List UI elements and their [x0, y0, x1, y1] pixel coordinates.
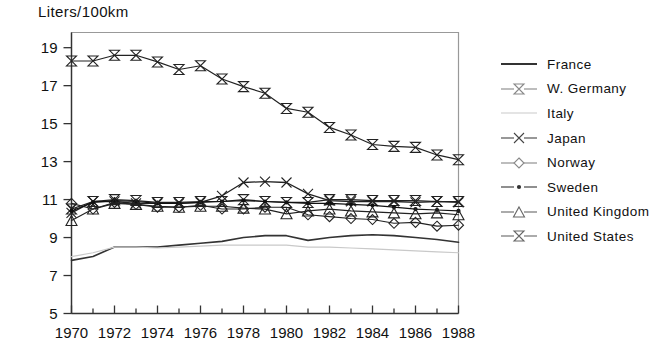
y-tick-label: 19 — [6, 39, 58, 56]
y-tick-label: 15 — [6, 115, 58, 132]
y-tick-label: 13 — [6, 153, 58, 170]
legend-item-label: Japan — [547, 131, 586, 146]
legend-item-w-germany[interactable]: W. Germany — [497, 77, 661, 102]
legend-marker-bowtie-icon — [497, 225, 541, 247]
legend-item-japan[interactable]: Japan — [497, 126, 661, 151]
legend-marker-dot-icon — [497, 176, 541, 198]
legend-item-label: Sweden — [547, 180, 599, 195]
legend-marker-none-icon — [497, 53, 541, 75]
x-tick-label: 1976 — [177, 324, 225, 341]
y-tick-label: 7 — [6, 267, 58, 284]
x-tick-label: 1974 — [134, 324, 182, 341]
legend-item-united-kingdom[interactable]: United Kingdom — [497, 200, 661, 225]
y-tick-label: 17 — [6, 77, 58, 94]
legend-item-label: United Kingdom — [547, 204, 649, 219]
x-tick-label: 1972 — [91, 324, 139, 341]
x-tick-label: 1984 — [349, 324, 397, 341]
legend-marker-none-icon — [497, 102, 541, 124]
y-tick-label: 11 — [6, 191, 58, 208]
legend-marker-diamond-icon — [497, 152, 541, 174]
series-united-states — [67, 50, 464, 164]
x-tick-label: 1970 — [48, 324, 96, 341]
legend-item-label: Italy — [547, 106, 574, 121]
series-italy — [72, 245, 459, 256]
chart-figure: Liters/100km 5791113151719 1970197219741… — [0, 0, 661, 359]
data-series-group — [66, 50, 464, 260]
y-tick-label: 5 — [6, 305, 58, 322]
axis-ticks — [64, 48, 459, 314]
legend-item-norway[interactable]: Norway — [497, 150, 661, 175]
legend-item-united-states[interactable]: United States — [497, 224, 661, 249]
legend-marker-bowtie-icon — [497, 78, 541, 100]
x-tick-label: 1978 — [220, 324, 268, 341]
legend-item-label: France — [547, 57, 592, 72]
legend-item-label: Norway — [547, 155, 595, 170]
legend-marker-cross-icon — [497, 127, 541, 149]
legend-item-france[interactable]: France — [497, 52, 661, 77]
legend-marker-triangle-icon — [497, 201, 541, 223]
x-tick-label: 1980 — [263, 324, 311, 341]
y-tick-label: 9 — [6, 229, 58, 246]
legend-item-italy[interactable]: Italy — [497, 101, 661, 126]
x-tick-label: 1986 — [392, 324, 440, 341]
legend-item-label: W. Germany — [547, 81, 627, 96]
x-tick-label: 1988 — [435, 324, 483, 341]
plot-frame — [72, 33, 459, 314]
x-tick-label: 1982 — [306, 324, 354, 341]
legend-item-sweden[interactable]: Sweden — [497, 175, 661, 200]
chart-legend: FranceW. GermanyItalyJapanNorwaySwedenUn… — [497, 52, 661, 249]
legend-item-label: United States — [547, 229, 634, 244]
